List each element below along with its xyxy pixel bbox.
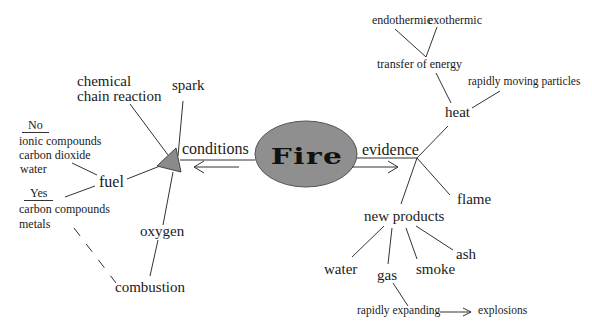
node-combustion: combustion (115, 280, 185, 295)
node-chemical-line2: chain reaction (77, 89, 162, 104)
node-spark: spark (172, 78, 205, 93)
fuel-yes-item: metals (19, 218, 50, 230)
fuel-no-item: carbon dioxide (19, 149, 91, 161)
conditions-link-label: conditions (182, 141, 249, 157)
node-ash: ash (456, 247, 476, 262)
fuel-no-heading: No (22, 119, 49, 133)
fuel-no-item: ionic compounds (19, 135, 101, 147)
fuel-yes-heading: Yes (24, 187, 53, 201)
junction-triangle (157, 148, 181, 172)
node-smoke: smoke (416, 262, 455, 277)
node-rapidly-moving-particles: rapidly moving particles (468, 76, 580, 88)
node-explosions: explosions (478, 305, 527, 317)
node-new-products: new products (364, 209, 444, 224)
node-exothermic: exothermic (428, 14, 482, 26)
fuel-no-item: water (20, 163, 47, 175)
fuel-yes-item: carbon compounds (19, 203, 110, 215)
node-heat: heat (445, 105, 470, 120)
node-oxygen: oxygen (140, 224, 184, 239)
node-chemical-line1: chemical (77, 74, 131, 89)
evidence-link-label: evidence (362, 142, 419, 158)
node-transfer-of-energy: transfer of energy (377, 58, 462, 70)
node-fuel: fuel (99, 174, 124, 190)
node-gas: gas (377, 268, 397, 283)
node-rapidly-expanding: rapidly expanding (357, 305, 440, 317)
node-flame: flame (457, 192, 491, 207)
node-water: water (324, 262, 357, 277)
node-endothermic: endothermic (372, 14, 432, 26)
fire-center-label: Fire (246, 143, 368, 169)
